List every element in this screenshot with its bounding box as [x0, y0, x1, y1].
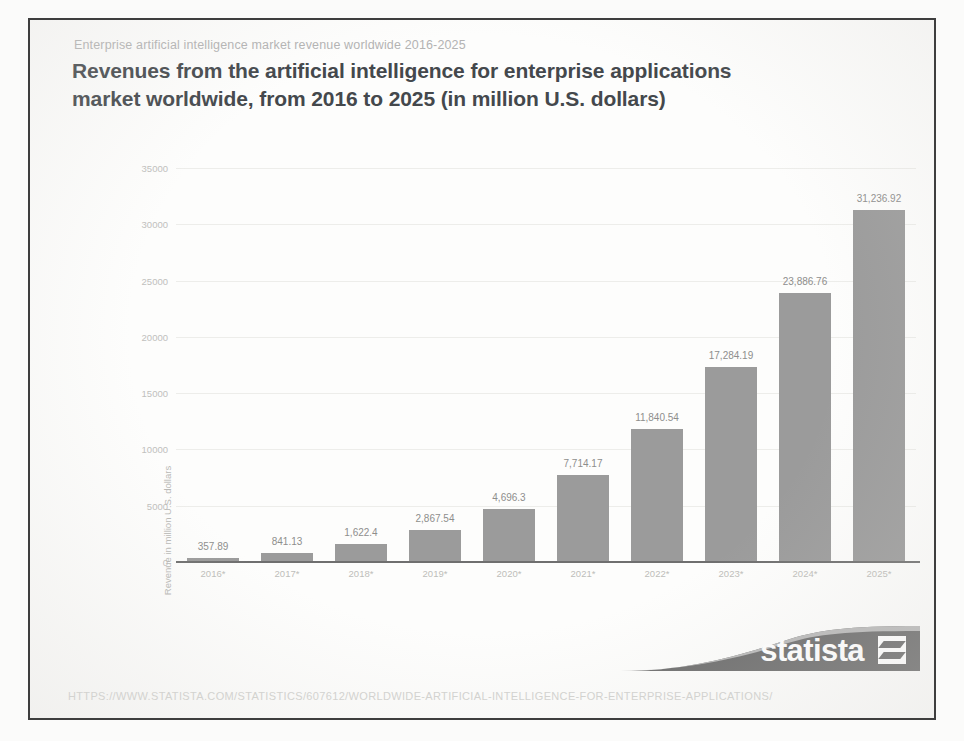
- bar-value-label: 357.89: [198, 541, 229, 552]
- x-axis-tick-label: 2016*: [201, 568, 226, 579]
- bar-value-label: 7,714.17: [564, 458, 603, 469]
- scanned-page: Enterprise artificial intelligence marke…: [0, 0, 964, 741]
- x-axis-line: [176, 561, 920, 563]
- bar-value-label: 4,696.3: [492, 492, 525, 503]
- bar[interactable]: [779, 293, 831, 562]
- gridline: [176, 224, 916, 225]
- x-axis-tick-label: 2024*: [793, 568, 818, 579]
- bar-value-label: 841.13: [272, 536, 303, 547]
- statista-glyph-icon: [878, 636, 906, 664]
- x-axis-tick-label: 2021*: [571, 568, 596, 579]
- bar[interactable]: [483, 509, 535, 562]
- y-axis-label-host: Revenue in million U.S. dollars: [108, 240, 122, 490]
- bar[interactable]: [705, 367, 757, 562]
- y-axis-tick-label: 0: [108, 557, 168, 568]
- x-axis-tick-label: 2018*: [349, 568, 374, 579]
- bar[interactable]: [631, 429, 683, 562]
- statista-logo: statista: [620, 625, 920, 677]
- y-axis-tick-label: 30000: [108, 219, 168, 230]
- source-url: HTTPS://WWW.STATISTA.COM/STATISTICS/6076…: [68, 690, 773, 702]
- statista-wordmark: statista: [760, 635, 864, 666]
- bar[interactable]: [335, 544, 387, 562]
- bar-value-label: 17,284.19: [709, 350, 754, 361]
- plot-area: [176, 168, 916, 562]
- bar-value-label: 31,236.92: [857, 193, 902, 204]
- bar[interactable]: [557, 475, 609, 562]
- y-axis-tick-label: 5000: [108, 500, 168, 511]
- y-axis-label: Revenue in million U.S. dollars: [162, 431, 173, 631]
- x-axis-tick-label: 2025*: [867, 568, 892, 579]
- bar-value-label: 11,840.54: [635, 412, 679, 423]
- y-axis-tick-label: 35000: [108, 163, 168, 174]
- x-axis-tick-label: 2017*: [275, 568, 300, 579]
- x-axis-tick-label: 2022*: [645, 568, 670, 579]
- bar[interactable]: [853, 210, 905, 562]
- gridline: [176, 168, 916, 169]
- x-axis-tick-label: 2023*: [719, 568, 744, 579]
- bar[interactable]: [409, 530, 461, 562]
- bar-value-label: 1,622.4: [344, 527, 377, 538]
- bar-value-label: 23,886.76: [783, 276, 828, 287]
- x-axis-tick-label: 2020*: [497, 568, 522, 579]
- bar-value-label: 2,867.54: [416, 513, 455, 524]
- x-axis-tick-label: 2019*: [423, 568, 448, 579]
